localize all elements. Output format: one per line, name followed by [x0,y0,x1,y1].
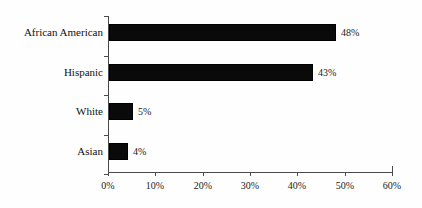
bar-value-label: 4% [133,143,146,160]
x-axis-tick-label: 20% [183,180,223,192]
bar[interactable] [109,103,133,120]
y-axis-tick [104,135,108,136]
bar-value-label: 48% [341,24,359,41]
category-label: White [0,103,103,120]
x-axis-tick-label: 50% [325,180,365,192]
x-axis-tick [250,172,251,176]
bar-row: Hispanic43% [0,64,422,81]
x-axis-tick-label: 10% [135,180,175,192]
bar-value-label: 43% [318,64,336,81]
plot-area: African American48%Hispanic43%White5%Asi… [0,0,422,208]
x-axis-tick-label: 30% [230,180,270,192]
x-axis-tick [155,172,156,176]
x-axis-tick-label: 40% [277,180,317,192]
x-axis-tick [108,172,109,176]
bar[interactable] [109,24,336,41]
bar-value-label: 5% [138,103,151,120]
x-axis-tick [297,172,298,176]
category-label: Hispanic [0,64,103,81]
bar-chart: African American48%Hispanic43%White5%Asi… [0,0,422,208]
x-axis-tick-label: 60% [372,180,412,192]
bar[interactable] [109,64,313,81]
y-axis-top-cap [104,16,109,17]
category-label: African American [0,24,103,41]
bar-row: White5% [0,103,422,120]
bar-row: Asian4% [0,143,422,160]
bar-row: African American48% [0,24,422,41]
x-axis-tick [203,172,204,176]
x-axis-tick [392,172,393,176]
x-axis-tick-label: 0% [88,180,128,192]
category-label: Asian [0,143,103,160]
x-axis-tick [345,172,346,176]
y-axis-tick [104,56,108,57]
y-axis-tick [104,95,108,96]
bar[interactable] [109,143,128,160]
